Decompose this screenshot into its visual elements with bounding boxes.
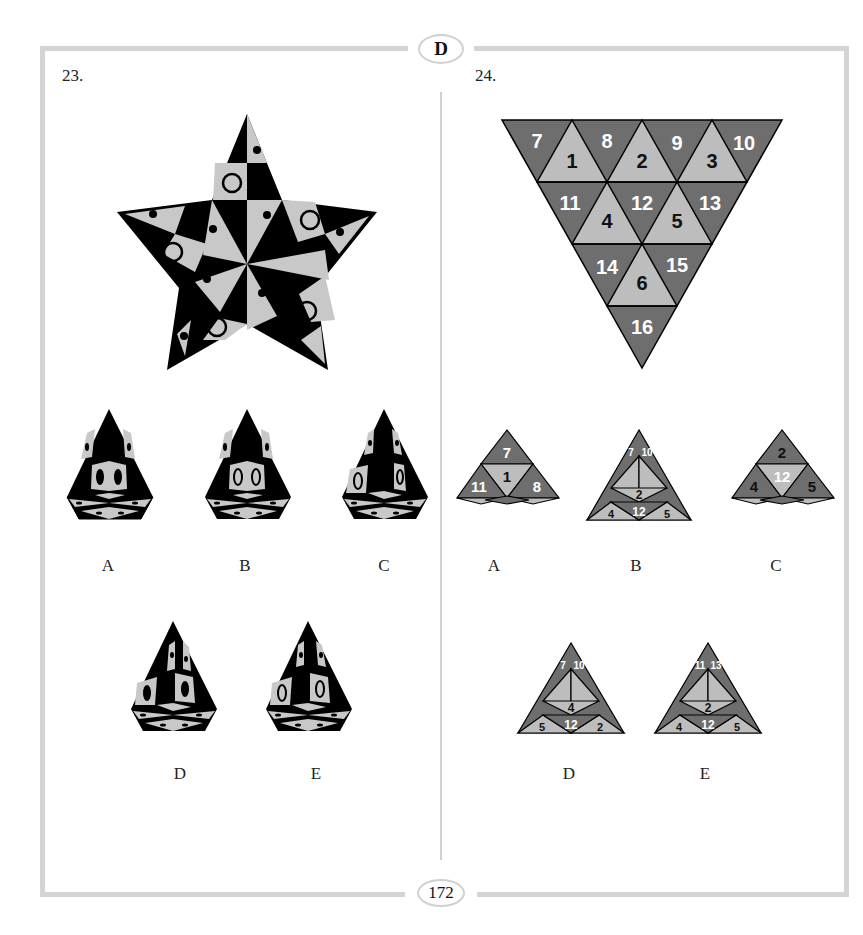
net-cell-10: 10 xyxy=(733,132,755,154)
option-24-a-label[interactable]: A xyxy=(479,556,509,576)
net-cell-7: 7 xyxy=(531,130,542,152)
face-label: 13 xyxy=(710,660,722,671)
net-cell-16: 16 xyxy=(631,316,653,338)
option-24-b-label[interactable]: B xyxy=(621,556,651,576)
face-label: 4 xyxy=(608,508,615,520)
face-label: 12 xyxy=(564,718,578,732)
option-23-e-figure[interactable] xyxy=(264,619,354,734)
net-cell-13: 13 xyxy=(699,192,721,214)
option-23-d-figure[interactable] xyxy=(129,619,219,734)
net-cell-1: 1 xyxy=(566,150,577,172)
face-label: 12 xyxy=(632,505,646,519)
option-24-e-label[interactable]: E xyxy=(690,764,720,784)
option-24-c-label[interactable]: C xyxy=(761,556,791,576)
option-23-d-label[interactable]: D xyxy=(165,764,195,784)
option-24-d-label[interactable]: D xyxy=(554,764,584,784)
face-label: 5 xyxy=(734,721,740,733)
option-23-a-label[interactable]: A xyxy=(93,556,123,576)
star-net-figure xyxy=(115,112,380,374)
face-label: 2 xyxy=(705,701,712,715)
face-label: 2 xyxy=(778,444,786,461)
face-label: 2 xyxy=(597,721,603,733)
face-label: 11 xyxy=(695,660,706,671)
face-label: 7 xyxy=(560,660,566,671)
column-divider xyxy=(440,92,442,860)
net-cell-2: 2 xyxy=(636,150,647,172)
net-cell-4: 4 xyxy=(601,210,613,232)
face-label: 11 xyxy=(471,478,487,495)
face-label: 5 xyxy=(808,478,816,495)
puzzle-number-23: 23. xyxy=(62,66,83,86)
face-label: 5 xyxy=(539,721,545,733)
option-23-e-label[interactable]: E xyxy=(301,764,331,784)
face-label: 5 xyxy=(664,508,670,520)
option-24-e-figure[interactable]: 2 12 4 5 11 13 xyxy=(653,641,763,735)
face-label: 2 xyxy=(636,488,643,502)
net-cell-5: 5 xyxy=(671,210,682,232)
page-number-badge: 172 xyxy=(417,879,465,907)
face-label: 12 xyxy=(701,718,715,732)
puzzle-number-24: 24. xyxy=(475,66,496,86)
face-label: 10 xyxy=(573,660,585,671)
face-label: 4 xyxy=(750,478,759,495)
face-label: 8 xyxy=(533,478,541,495)
net-cell-3: 3 xyxy=(706,150,717,172)
face-label: 10 xyxy=(641,447,653,458)
face-label: 12 xyxy=(774,468,791,485)
option-23-b-label[interactable]: B xyxy=(230,556,260,576)
face-label: 1 xyxy=(503,468,511,485)
option-24-a-figure[interactable]: 7 11 1 8 xyxy=(455,428,561,504)
net-cell-14: 14 xyxy=(596,256,619,278)
option-23-c-label[interactable]: C xyxy=(369,556,399,576)
triangle-net-figure: 7 1 8 2 9 3 10 11 4 12 5 13 14 6 15 16 xyxy=(500,118,784,370)
net-cell-15: 15 xyxy=(666,254,688,276)
section-badge: D xyxy=(418,34,464,64)
option-23-a-figure[interactable] xyxy=(65,407,155,522)
face-label: 7 xyxy=(628,447,634,458)
net-cell-8: 8 xyxy=(601,130,612,152)
face-label: 4 xyxy=(568,701,575,715)
option-24-b-figure[interactable]: 2 12 4 5 7 10 xyxy=(585,428,693,522)
net-cell-12: 12 xyxy=(631,192,653,214)
option-23-b-figure[interactable] xyxy=(203,407,293,522)
option-23-c-figure[interactable] xyxy=(340,407,430,522)
option-24-d-figure[interactable]: 4 12 5 2 7 10 xyxy=(516,641,626,735)
net-cell-9: 9 xyxy=(671,132,682,154)
face-label: 7 xyxy=(503,444,511,461)
net-cell-11: 11 xyxy=(559,192,580,214)
net-cell-6: 6 xyxy=(636,272,647,294)
option-24-c-figure[interactable]: 2 4 12 5 xyxy=(730,428,836,504)
face-label: 4 xyxy=(676,721,683,733)
